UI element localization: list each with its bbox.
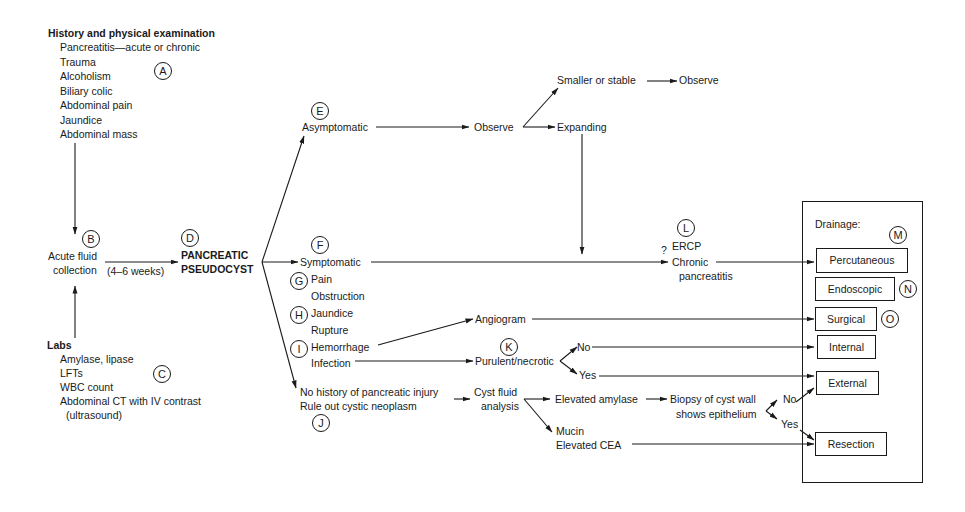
- symptomatic-label: Symptomatic: [300, 256, 361, 269]
- labs-item: Abdominal CT with IV contrast: [60, 395, 201, 408]
- history-item: Jaundice: [60, 114, 102, 127]
- neoplasm-line2: Rule out cystic neoplasm: [300, 400, 417, 413]
- labs-item: LFTs: [60, 367, 83, 380]
- labs-title: Labs: [47, 339, 72, 352]
- purulent-yes-label: Yes: [579, 369, 596, 382]
- duration-label: (4–6 weeks): [107, 265, 164, 278]
- history-item: Pancreatitis—acute or chronic: [60, 41, 200, 54]
- cyst-fluid-line2: analysis: [481, 400, 519, 413]
- neoplasm-line1: No history of pancreatic injury: [300, 386, 438, 399]
- surgical-box: Surgical: [815, 307, 877, 331]
- observe-2-label: Observe: [679, 74, 719, 87]
- elevated-cea-label: Elevated CEA: [556, 439, 621, 452]
- resection-box: Resection: [815, 432, 887, 456]
- pancreatitis-label: pancreatitis: [679, 270, 733, 283]
- expanding-label: Expanding: [557, 121, 607, 134]
- chronic-label: Chronic: [672, 256, 708, 269]
- history-item: Abdominal mass: [60, 128, 138, 141]
- labs-item: WBC count: [60, 381, 113, 394]
- marker-j: J: [312, 414, 330, 432]
- marker-i: I: [290, 340, 308, 358]
- elevated-amylase-label: Elevated amylase: [555, 393, 638, 406]
- symptom-item: Pain: [311, 273, 332, 286]
- labs-item: (ultrasound): [66, 409, 122, 422]
- symptom-item: Hemorrhage: [311, 341, 369, 354]
- external-box: External: [816, 371, 879, 395]
- marker-o: O: [881, 310, 899, 328]
- biopsy-no-label: No: [783, 393, 796, 406]
- ercp-question: ?: [661, 244, 667, 257]
- smaller-or-stable-label: Smaller or stable: [557, 74, 636, 87]
- marker-g: G: [290, 272, 308, 290]
- percutaneous-box: Percutaneous: [816, 248, 908, 273]
- drainage-title: Drainage:: [815, 218, 861, 231]
- internal-box: Internal: [817, 335, 876, 359]
- marker-b: B: [82, 230, 100, 248]
- pseudocyst-line1: PANCREATIC: [181, 249, 248, 262]
- marker-f: F: [311, 236, 329, 254]
- angiogram-label: Angiogram: [475, 313, 526, 326]
- marker-h: H: [290, 306, 308, 324]
- observe-label: Observe: [474, 121, 514, 134]
- marker-e: E: [311, 102, 329, 120]
- ercp-label: ERCP: [672, 240, 701, 253]
- marker-n: N: [899, 280, 917, 298]
- biopsy-line2: shows epithelium: [676, 408, 757, 421]
- symptom-item: Jaundice: [311, 307, 353, 320]
- marker-d: D: [181, 229, 199, 247]
- acute-line1: Acute fluid: [48, 250, 97, 263]
- biopsy-line1: Biopsy of cyst wall: [670, 393, 756, 406]
- cyst-fluid-line1: Cyst fluid: [474, 386, 517, 399]
- history-item: Alcoholism: [60, 70, 111, 83]
- history-title: History and physical examination: [48, 27, 215, 40]
- endoscopic-box: Endoscopic: [815, 277, 895, 301]
- pseudocyst-line2: PSEUDOCYST: [181, 263, 253, 276]
- symptom-item: Infection: [311, 357, 351, 370]
- pancreatic-pseudocyst-flowchart: History and physical examination Pancrea…: [0, 0, 965, 512]
- mucin-label: Mucin: [556, 425, 584, 438]
- symptom-item: Obstruction: [311, 290, 365, 303]
- asymptomatic-label: Asymptomatic: [302, 121, 368, 134]
- labs-item: Amylase, lipase: [60, 353, 134, 366]
- marker-l: L: [677, 219, 695, 237]
- marker-a: A: [154, 62, 172, 80]
- history-item: Trauma: [60, 56, 96, 69]
- marker-m: M: [889, 226, 907, 244]
- purulent-no-label: No: [577, 341, 590, 354]
- biopsy-yes-label: Yes: [781, 418, 798, 431]
- purulent-label: Purulent/necrotic: [475, 355, 554, 368]
- acute-line2: collection: [53, 264, 97, 277]
- history-item: Abdominal pain: [60, 99, 132, 112]
- history-item: Biliary colic: [60, 85, 113, 98]
- marker-c: C: [153, 365, 171, 383]
- symptom-item: Rupture: [311, 324, 348, 337]
- marker-k: K: [500, 338, 518, 356]
